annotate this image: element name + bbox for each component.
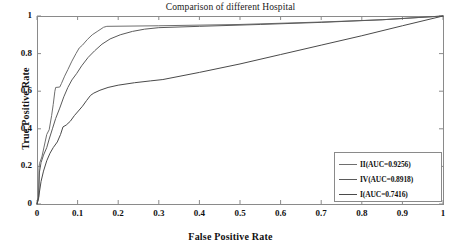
legend-line-swatch [339, 194, 357, 195]
y-tick-label: 0.2 [2, 160, 32, 170]
y-tick-label: 0.6 [2, 85, 32, 95]
x-axis-title: False Positive Rate [0, 231, 461, 242]
x-tick-label: 0.7 [306, 208, 336, 218]
legend-line-swatch [339, 179, 357, 180]
x-tick-label: 0.1 [63, 208, 93, 218]
x-tick-label: 0.4 [184, 208, 214, 218]
y-tick-label: 0.8 [2, 48, 32, 58]
x-tick-label: 0.8 [347, 208, 377, 218]
legend-label: II(AUC=0.9256) [360, 160, 411, 169]
x-tick-label: 0 [22, 208, 52, 218]
legend-item[interactable]: IV(AUC=0.8918) [339, 172, 413, 186]
legend-item[interactable]: I(AUC=0.7416) [339, 187, 408, 201]
x-tick-label: 0.9 [387, 208, 417, 218]
x-tick-label: 0.2 [103, 208, 133, 218]
legend-label: IV(AUC=0.8918) [360, 175, 413, 184]
y-axis-title: True Positive Rate [20, 39, 31, 179]
y-tick-label: 1 [2, 10, 32, 20]
legend-item[interactable]: II(AUC=0.9256) [339, 157, 411, 171]
x-tick-label: 1 [428, 208, 458, 218]
y-tick-label: 0 [2, 198, 32, 208]
legend-line-swatch [339, 164, 357, 165]
legend-label: I(AUC=0.7416) [360, 190, 408, 199]
x-tick-label: 0.3 [144, 208, 174, 218]
y-tick-label: 0.4 [2, 123, 32, 133]
chart-legend: II(AUC=0.9256)IV(AUC=0.8918)I(AUC=0.7416… [334, 152, 442, 202]
x-tick-label: 0.6 [266, 208, 296, 218]
x-tick-label: 0.5 [225, 208, 255, 218]
roc-chart-figure: Comparison of different Hospital False P… [0, 0, 461, 250]
